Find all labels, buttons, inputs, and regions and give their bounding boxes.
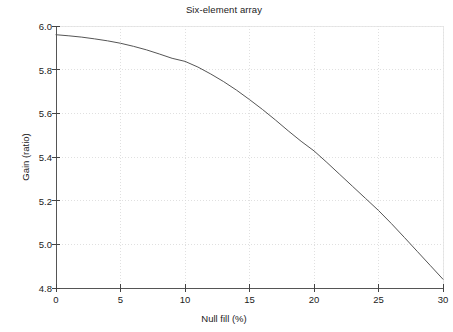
x-tick-label: 0 [36, 294, 76, 305]
x-tick-label: 5 [101, 294, 141, 305]
x-tick-label-layer: 051015202530 [0, 294, 448, 310]
grid-lines [56, 26, 443, 288]
y-tick-label: 5.2 [8, 195, 52, 206]
y-tick-label: 5.6 [8, 108, 52, 119]
y-tick-label: 6.0 [8, 21, 52, 32]
y-tick-label: 5.0 [8, 239, 52, 250]
x-tick-label: 15 [230, 294, 270, 305]
y-tick-label: 4.8 [8, 283, 52, 294]
x-tick-label: 20 [294, 294, 334, 305]
x-tick-label: 30 [423, 294, 453, 305]
y-tick-label-layer: 6.05.85.65.45.25.04.8 [0, 0, 52, 332]
y-tick-label: 5.8 [8, 64, 52, 75]
tick-marks [52, 26, 443, 292]
y-tick-label: 5.4 [8, 152, 52, 163]
x-tick-label: 10 [165, 294, 205, 305]
x-tick-label: 25 [359, 294, 399, 305]
